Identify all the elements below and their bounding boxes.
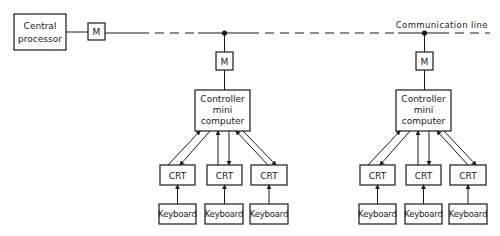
central-processor-label-2: processor bbox=[18, 34, 62, 44]
crt-label: CRT bbox=[369, 171, 387, 181]
keyboard-node: Keyboard bbox=[358, 204, 396, 224]
keyboard-node: Keyboard bbox=[404, 204, 442, 224]
keyboard-label: Keyboard bbox=[449, 209, 487, 219]
crt-node: CRT bbox=[360, 165, 395, 185]
keyboard-label: Keyboard bbox=[404, 209, 442, 219]
keyboard-label: Keyboard bbox=[358, 209, 396, 219]
keyboard-node: Keyboard bbox=[449, 204, 487, 224]
controller-label-3: computer bbox=[201, 116, 245, 126]
controller-node: Controller mini computer bbox=[396, 90, 451, 131]
crt-label: CRT bbox=[260, 171, 278, 181]
central-modem-label: M bbox=[93, 27, 101, 37]
keyboard-node: Keyboard bbox=[250, 204, 288, 224]
modem-label: M bbox=[221, 57, 229, 67]
crt-node: CRT bbox=[406, 165, 441, 185]
communication-line-label: Communication line bbox=[396, 20, 488, 30]
keyboard-label: Keyboard bbox=[250, 209, 288, 219]
crt-node: CRT bbox=[207, 165, 242, 185]
cluster-2: M Controller mini computer CRT CRT CRT bbox=[358, 30, 487, 224]
crt-label: CRT bbox=[169, 171, 187, 181]
crt-node: CRT bbox=[251, 165, 287, 185]
central-modem-node: M bbox=[88, 23, 105, 40]
modem-node: M bbox=[216, 52, 233, 70]
controller-node: Controller mini computer bbox=[195, 90, 250, 131]
controller-label-2: mini bbox=[213, 105, 232, 115]
central-processor-label-1: Central bbox=[24, 21, 57, 31]
crt-label: CRT bbox=[459, 171, 477, 181]
modem-node: M bbox=[416, 52, 433, 70]
crt-node: CRT bbox=[160, 165, 195, 185]
crt-label: CRT bbox=[216, 171, 234, 181]
keyboard-label: Keyboard bbox=[205, 209, 243, 219]
controller-label-3: computer bbox=[402, 116, 446, 126]
network-diagram: Central processor M Communication line M… bbox=[0, 0, 500, 236]
central-processor-node: Central processor bbox=[14, 14, 66, 50]
keyboard-node: Keyboard bbox=[205, 204, 243, 224]
keyboard-label: Keyboard bbox=[158, 209, 196, 219]
controller-label-2: mini bbox=[414, 105, 433, 115]
modem-label: M bbox=[421, 57, 429, 67]
keyboard-node: Keyboard bbox=[158, 204, 196, 224]
cluster-1: M Controller mini computer CRT CRT CRT bbox=[158, 30, 288, 224]
crt-node: CRT bbox=[450, 165, 486, 185]
controller-label-1: Controller bbox=[200, 94, 245, 104]
crt-label: CRT bbox=[415, 171, 433, 181]
communication-line: Communication line bbox=[105, 20, 490, 33]
controller-label-1: Controller bbox=[401, 94, 446, 104]
